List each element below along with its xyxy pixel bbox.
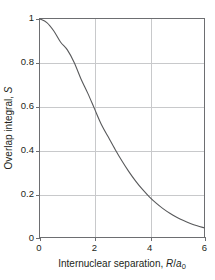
x-axis-title: Internuclear separation, R/a0 xyxy=(39,258,205,273)
x-tick-label-0: 0 xyxy=(36,243,41,253)
y-tick-label-1: 1 xyxy=(29,13,34,23)
y-axis-title-symbol-S: S xyxy=(3,87,14,94)
x-tick-mark-6 xyxy=(205,237,206,241)
y-tick-label-0.8: 0.8 xyxy=(21,57,34,67)
plot-area xyxy=(39,18,205,238)
x-tick-mark-2 xyxy=(95,237,96,241)
x-tick-label-6: 6 xyxy=(202,243,207,253)
x-tick-label-4: 4 xyxy=(147,243,152,253)
y-tick-label-0.4: 0.4 xyxy=(21,145,34,155)
y-tick-label-0.6: 0.6 xyxy=(21,101,34,111)
overlap-integral-curve xyxy=(40,19,204,237)
y-axis-title-prefix: Overlap integral, xyxy=(3,93,14,169)
x-tick-mark-4 xyxy=(151,237,152,241)
y-axis-title: Overlap integral, S xyxy=(2,18,16,238)
chart-figure: 1 0.8 0.6 0.4 0.2 0 0 2 4 6 Overlap xyxy=(0,0,215,280)
x-tick-label-2: 2 xyxy=(92,243,97,253)
y-tick-label-0.2: 0.2 xyxy=(21,189,34,199)
x-axis-title-subscript-zero: 0 xyxy=(182,262,186,271)
y-tick-label-0: 0 xyxy=(29,233,34,243)
x-tick-mark-0 xyxy=(40,237,41,241)
x-axis-title-prefix: Internuclear separation, xyxy=(58,258,166,269)
